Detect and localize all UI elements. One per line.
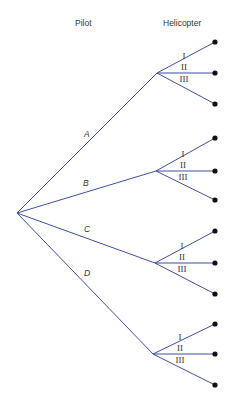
- pilot-header: Pilot: [75, 18, 92, 28]
- helicopter-label: III: [176, 355, 185, 365]
- helicopter-label: II: [180, 160, 186, 170]
- pilot-branch-c: [17, 213, 155, 263]
- tree-diagram: Pilot Helicopter AIIIIIIBIIIIIICIIIIIIDI…: [0, 0, 229, 409]
- helicopter-label: I: [181, 241, 184, 251]
- leaf-node: [212, 70, 217, 75]
- leaf-node: [212, 321, 217, 326]
- helicopter-label: I: [182, 149, 185, 159]
- helicopter-branch: [153, 324, 215, 354]
- leaf-node: [212, 197, 217, 202]
- leaf-node: [212, 351, 217, 356]
- leaf-node: [212, 135, 217, 140]
- helicopter-label: II: [177, 343, 183, 353]
- helicopter-label: II: [181, 62, 187, 72]
- tree-edges: AIIIIIIBIIIIIICIIIIIIDIIIIII: [17, 39, 218, 387]
- leaf-node: [212, 228, 217, 233]
- helicopter-label: II: [179, 252, 185, 262]
- pilot-branch-d: [17, 213, 153, 354]
- leaf-node: [212, 39, 217, 44]
- helicopter-label: I: [183, 51, 186, 61]
- leaf-node: [212, 260, 217, 265]
- helicopter-label: III: [180, 74, 189, 84]
- helicopter-label: I: [179, 332, 182, 342]
- pilot-label-d: D: [84, 268, 90, 278]
- helicopter-branch: [155, 231, 215, 263]
- leaf-node: [212, 168, 217, 173]
- pilot-label-c: C: [84, 224, 91, 234]
- leaf-node: [212, 101, 217, 106]
- pilot-label-b: B: [83, 178, 89, 188]
- helicopter-header: Helicopter: [163, 18, 201, 28]
- pilot-label-a: A: [83, 129, 90, 139]
- helicopter-label: III: [178, 264, 187, 274]
- helicopter-label: III: [179, 172, 188, 182]
- leaf-node: [212, 291, 217, 296]
- leaf-node: [212, 382, 217, 387]
